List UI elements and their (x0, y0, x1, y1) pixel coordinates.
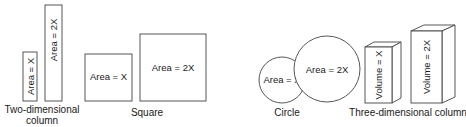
square-group: Area = X Area = 2X Square (85, 34, 206, 118)
square-large-label: Area = 2X (152, 62, 195, 73)
box-small-side (392, 42, 401, 103)
box-small-label: Volume = X (373, 50, 384, 100)
two-dimensional-column-group: Area = X Area = 2X Two-dimensional colum… (4, 5, 79, 126)
box-large-side (442, 25, 455, 103)
square-small-label: Area = X (90, 71, 128, 82)
column-large-label: Area = 2X (48, 18, 59, 61)
three-dimensional-column-caption: Three-dimensional column (349, 107, 466, 118)
box-large-label: Volume = 2X (421, 39, 432, 94)
diagram-canvas: Area = X Area = 2X Two-dimensional colum… (0, 0, 466, 127)
two-dimensional-column-caption-line2: column (26, 115, 58, 126)
circle-large-label: Area = 2X (306, 64, 349, 75)
two-dimensional-column-caption-line1: Two-dimensional (4, 104, 79, 115)
three-dimensional-column-group: Volume = X Volume = 2X Three-dimensional… (349, 25, 466, 118)
circle-group: Area = X Area = 2X Circle (259, 36, 360, 118)
square-caption: Square (131, 107, 164, 118)
column-small-label: Area = X (25, 57, 36, 95)
circle-caption: Circle (274, 107, 300, 118)
